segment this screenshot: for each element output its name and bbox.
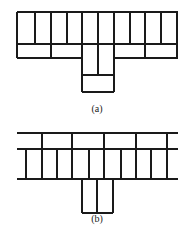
figure-b-grid bbox=[17, 133, 178, 213]
structural-grid-diagram bbox=[0, 0, 190, 233]
figure-b-caption: (b) bbox=[91, 213, 103, 224]
figure-a-grid bbox=[17, 12, 178, 92]
figure-a-caption: (a) bbox=[91, 103, 102, 114]
